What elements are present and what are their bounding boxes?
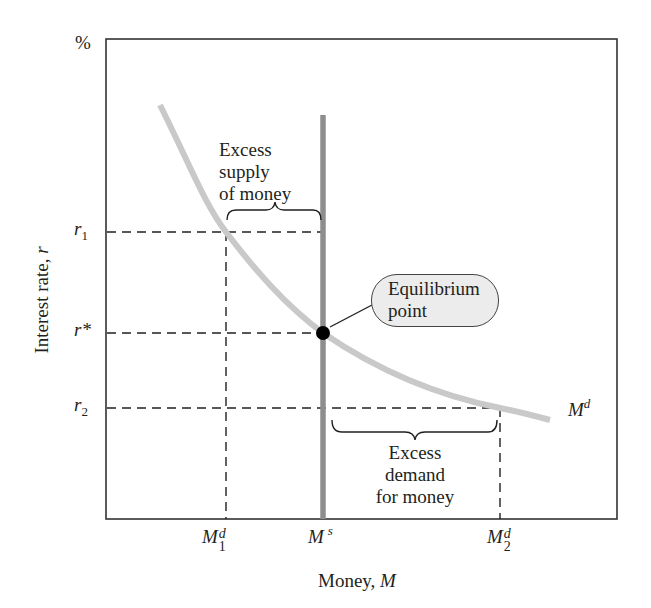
tick-m1d-sub: 1 <box>219 540 226 554</box>
y-axis-title-var: r <box>31 246 52 253</box>
tick-r2: r2 <box>74 395 88 416</box>
excess-supply-annotation: Excess supply of money <box>219 139 291 205</box>
y-axis-title: Interest rate, r <box>31 246 53 353</box>
excess-supply-line-2: supply <box>219 161 291 183</box>
equilibrium-callout: Equilibrium point <box>371 274 499 327</box>
percent-label: % <box>75 33 91 54</box>
md-curve-label: Md <box>568 400 590 421</box>
excess-demand-line-3: for money <box>365 486 465 508</box>
excess-supply-line-3: of money <box>219 183 291 205</box>
diagram-canvas <box>0 0 651 608</box>
tick-ms: Ms <box>308 527 333 548</box>
x-axis-title-var: M <box>380 570 396 591</box>
excess-demand-line-2: demand <box>365 464 465 486</box>
tick-m2d: Md2 <box>487 527 511 554</box>
excess-demand-brace <box>332 420 497 440</box>
x-axis-title-text: Money, <box>318 570 380 591</box>
md-label-sup: d <box>584 396 591 411</box>
plot-frame <box>106 39 617 519</box>
tick-m2d-base: M <box>487 526 503 547</box>
y-axis-title-text: Interest rate, <box>31 254 52 354</box>
tick-rstar: r* <box>74 320 91 341</box>
tick-ms-base: M <box>308 526 324 547</box>
tick-r1-sub: 1 <box>81 228 88 243</box>
tick-m2d-sub: 2 <box>504 540 511 554</box>
equilibrium-dot <box>316 326 330 340</box>
excess-demand-line-1: Excess <box>365 442 465 464</box>
excess-supply-line-1: Excess <box>219 139 291 161</box>
equilibrium-line-1: Equilibrium <box>388 278 498 300</box>
md-label-base: M <box>568 399 584 420</box>
excess-demand-annotation: Excess demand for money <box>365 442 465 508</box>
tick-m1d: Md1 <box>202 527 226 554</box>
equilibrium-line-2: point <box>388 300 498 322</box>
x-axis-title: Money, M <box>318 571 396 592</box>
tick-r2-sub: 2 <box>81 404 88 419</box>
equilibrium-pointer <box>330 305 372 327</box>
tick-ms-sup: s <box>328 523 333 538</box>
tick-m1d-base: M <box>202 526 218 547</box>
tick-r1: r1 <box>74 219 88 240</box>
